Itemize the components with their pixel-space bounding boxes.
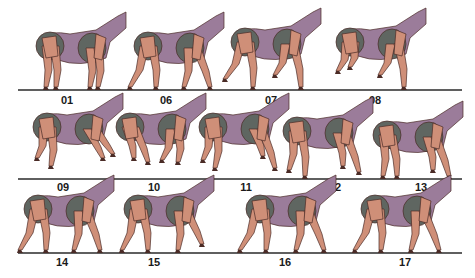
hoof-icon: [352, 250, 358, 253]
frame-label: 17: [399, 256, 411, 268]
hoof-icon: [377, 75, 383, 78]
horse-frame-12: [283, 97, 373, 179]
hoof-icon: [436, 250, 442, 253]
frame-label: 14: [56, 256, 69, 268]
frame-label: 06: [160, 94, 172, 106]
hoof-icon: [145, 250, 151, 253]
hoof-icon: [159, 160, 165, 163]
hoof-icon: [48, 166, 54, 169]
hoof-icon: [401, 87, 407, 90]
hoof-icon: [100, 158, 106, 161]
hoof-icon: [430, 170, 436, 173]
horse-frame-13: [373, 101, 463, 179]
hoof-icon: [43, 87, 49, 90]
horse-frame-01: [36, 12, 126, 90]
hoof-icon: [250, 87, 256, 90]
frame-label: 10: [148, 181, 160, 193]
horse-frame-08: [335, 8, 426, 90]
hoof-icon: [127, 87, 133, 90]
hoof-icon: [207, 87, 213, 90]
hoof-icon: [199, 244, 205, 247]
frame-label: 11: [240, 181, 252, 193]
hoof-icon: [286, 170, 292, 173]
hoof-icon: [272, 75, 278, 78]
hoof-icon: [302, 176, 308, 179]
hoof-icon: [408, 250, 414, 253]
hoof-icon: [131, 158, 137, 161]
horse-frame-15: [119, 175, 214, 253]
hoof-icon: [321, 250, 327, 253]
hoof-icon: [153, 87, 159, 90]
hoof-icon: [222, 79, 228, 82]
hoof-icon: [200, 160, 206, 163]
horse-frame-06: [127, 12, 224, 90]
hoof-icon: [95, 87, 101, 90]
hoof-icon: [293, 250, 299, 253]
hoof-icon: [263, 250, 269, 253]
hoof-icon: [212, 168, 218, 171]
frame-label: 01: [61, 94, 73, 106]
hoof-icon: [298, 87, 304, 90]
hoof-icon: [347, 67, 353, 70]
hoof-icon: [237, 250, 243, 253]
hoof-icon: [175, 162, 181, 165]
hoof-icon: [34, 158, 40, 161]
hoof-icon: [71, 250, 77, 253]
hoof-icon: [43, 250, 49, 253]
hoof-icon: [53, 87, 59, 90]
hoof-icon: [380, 176, 386, 179]
hoof-icon: [181, 87, 187, 90]
hoof-icon: [356, 172, 362, 175]
frame-label: 09: [57, 181, 69, 193]
hoof-icon: [378, 250, 384, 253]
horse-frame-11: [199, 93, 289, 171]
hoof-icon: [17, 250, 23, 253]
horse-gait-diagram: 01060708091011121314151617: [0, 0, 475, 278]
frame-label: 15: [148, 256, 160, 268]
hoof-icon: [119, 250, 125, 253]
hoof-icon: [145, 162, 151, 165]
horse-frame-17: [352, 175, 451, 253]
frame-label: 16: [279, 256, 291, 268]
hoof-icon: [260, 156, 266, 159]
horse-frame-07: [222, 8, 321, 90]
hoof-icon: [272, 168, 278, 171]
horse-frame-16: [237, 175, 336, 253]
hoof-icon: [340, 166, 346, 169]
hoof-icon: [97, 250, 103, 253]
horse-frame-09: [33, 93, 123, 169]
gait-sequence-figure: 01060708091011121314151617: [0, 0, 475, 278]
hoof-icon: [110, 154, 116, 157]
hoof-icon: [87, 87, 93, 90]
hoof-icon: [175, 250, 181, 253]
hoof-icon: [394, 176, 400, 179]
hoof-icon: [335, 71, 341, 74]
